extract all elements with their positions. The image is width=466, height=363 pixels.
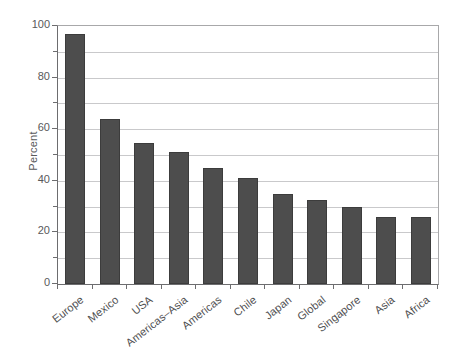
y-axis-tick-label: 100 xyxy=(4,19,50,30)
x-axis-tick xyxy=(161,284,162,289)
bar xyxy=(411,217,431,284)
y-axis-minor-tick xyxy=(53,257,57,258)
bar xyxy=(273,194,293,284)
x-axis-tick xyxy=(333,284,334,289)
x-axis-tick xyxy=(195,284,196,289)
y-axis-minor-tick xyxy=(53,206,57,207)
x-axis-tick xyxy=(368,284,369,289)
bar xyxy=(169,152,189,284)
y-axis-minor-tick xyxy=(53,102,57,103)
x-axis-tick xyxy=(437,284,438,289)
bar xyxy=(65,34,85,284)
bar xyxy=(376,217,396,284)
bar-chart: Percent 020406080100 EuropeMexicoUSAAmer… xyxy=(0,0,466,363)
x-axis-tick xyxy=(92,284,93,289)
bar xyxy=(203,168,223,284)
x-axis-tick xyxy=(126,284,127,289)
y-axis-tick-labels: 020406080100 xyxy=(0,0,50,363)
x-axis-tick xyxy=(299,284,300,289)
y-axis-tick xyxy=(52,77,57,78)
bar xyxy=(238,178,258,284)
bar xyxy=(134,143,154,284)
y-axis-minor-tick xyxy=(53,51,57,52)
plot-area xyxy=(57,25,439,285)
y-axis-tick-label: 0 xyxy=(4,277,50,288)
y-axis-tick xyxy=(52,128,57,129)
y-axis-minor-tick xyxy=(53,154,57,155)
x-axis-tick xyxy=(57,284,58,289)
bar xyxy=(342,207,362,284)
y-axis-tick xyxy=(52,231,57,232)
y-axis-tick-label: 80 xyxy=(4,71,50,82)
bar xyxy=(100,119,120,284)
y-axis-tick xyxy=(52,180,57,181)
x-axis-tick xyxy=(402,284,403,289)
bars-layer xyxy=(58,26,438,284)
x-axis-tick xyxy=(264,284,265,289)
bar xyxy=(307,200,327,284)
y-axis-tick-label: 20 xyxy=(4,225,50,236)
y-axis-tick-label: 60 xyxy=(4,122,50,133)
y-axis-tick xyxy=(52,25,57,26)
y-axis-tick-label: 40 xyxy=(4,174,50,185)
x-axis-tick xyxy=(230,284,231,289)
